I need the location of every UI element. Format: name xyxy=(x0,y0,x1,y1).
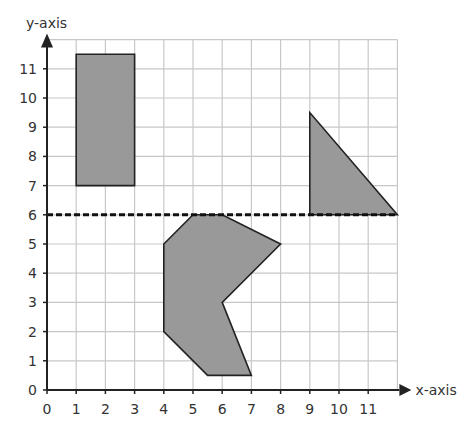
x-tick-label: 1 xyxy=(72,401,81,417)
y-axis-arrow-icon xyxy=(41,34,53,48)
x-tick-label: 9 xyxy=(305,401,314,417)
coordinate-grid-diagram: 0123456789101101234567891011 x-axis y-ax… xyxy=(0,0,464,434)
polygon-shape xyxy=(164,215,281,376)
y-tick-label: 10 xyxy=(19,90,37,106)
y-tick-label: 7 xyxy=(28,178,37,194)
x-tick-label: 7 xyxy=(247,401,256,417)
y-tick-label: 0 xyxy=(28,382,37,398)
y-tick-label: 2 xyxy=(28,324,37,340)
y-tick-label: 11 xyxy=(19,61,37,77)
y-tick-label: 4 xyxy=(28,265,37,281)
rectangle-shape xyxy=(76,54,134,185)
y-tick-label: 6 xyxy=(28,207,37,223)
x-tick-label: 4 xyxy=(159,401,168,417)
y-tick-label: 8 xyxy=(28,148,37,164)
x-tick-label: 0 xyxy=(43,401,52,417)
grid-plot: 0123456789101101234567891011 x-axis y-ax… xyxy=(0,0,464,434)
y-tick-label: 3 xyxy=(28,294,37,310)
y-axis-label: y-axis xyxy=(26,15,67,31)
y-tick-label: 5 xyxy=(28,236,37,252)
x-tick-label: 5 xyxy=(189,401,198,417)
y-tick-label: 9 xyxy=(28,119,37,135)
x-tick-label: 11 xyxy=(359,401,377,417)
x-tick-label: 6 xyxy=(218,401,227,417)
x-axis-label: x-axis xyxy=(415,382,456,398)
x-tick-label: 8 xyxy=(276,401,285,417)
x-tick-label: 10 xyxy=(330,401,348,417)
triangle-shape xyxy=(310,113,398,215)
y-tick-label: 1 xyxy=(28,353,37,369)
x-tick-label: 3 xyxy=(130,401,139,417)
x-axis-arrow-icon xyxy=(399,384,411,396)
x-tick-label: 2 xyxy=(101,401,110,417)
